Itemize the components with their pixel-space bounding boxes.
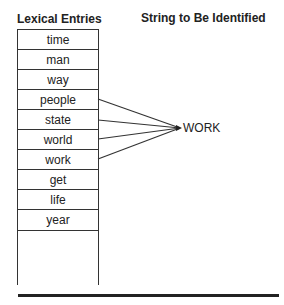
line-work [98,128,180,159]
target-string: WORK [183,121,220,135]
connection-lines [0,0,284,305]
arrowhead-icon [176,125,182,131]
line-world [98,128,180,139]
bottom-rule [18,294,279,297]
